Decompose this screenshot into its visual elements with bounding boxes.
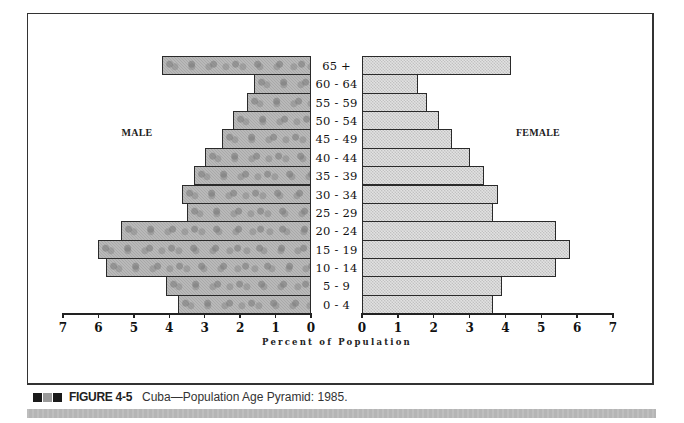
age-group-label: 25 - 29 bbox=[311, 204, 363, 222]
male-x-axis bbox=[63, 313, 311, 315]
x-tick bbox=[505, 313, 507, 318]
x-tick-label: 7 bbox=[603, 321, 623, 335]
x-tick bbox=[62, 313, 64, 318]
x-tick bbox=[204, 313, 206, 318]
male-bar bbox=[187, 203, 311, 222]
x-tick-label: 2 bbox=[424, 321, 444, 335]
x-tick-label: 1 bbox=[388, 321, 408, 335]
x-tick-label: 0 bbox=[301, 321, 321, 335]
x-tick-label: 4 bbox=[495, 321, 515, 335]
age-group-label: 55 - 59 bbox=[311, 94, 363, 112]
x-axis-title: Percent of Population bbox=[262, 337, 412, 347]
x-tick bbox=[133, 313, 135, 318]
x-tick-label: 6 bbox=[567, 321, 587, 335]
male-bar bbox=[247, 93, 311, 112]
x-tick bbox=[169, 313, 171, 318]
female-label: FEMALE bbox=[516, 127, 560, 138]
x-tick bbox=[275, 313, 277, 318]
male-bar bbox=[106, 258, 311, 277]
age-group-label: 45 - 49 bbox=[311, 130, 363, 148]
x-tick-label: 3 bbox=[195, 321, 215, 335]
x-tick bbox=[98, 313, 100, 318]
male-label: MALE bbox=[122, 127, 153, 138]
x-tick bbox=[310, 313, 312, 318]
x-tick-label: 4 bbox=[159, 321, 179, 335]
female-bar bbox=[362, 258, 556, 277]
x-tick-label: 2 bbox=[230, 321, 250, 335]
male-bar bbox=[162, 56, 311, 75]
caption-square-icon bbox=[43, 393, 52, 402]
caption-square-icon bbox=[33, 393, 42, 402]
age-group-label: 30 - 34 bbox=[311, 186, 363, 204]
caption-square-icon bbox=[53, 393, 62, 402]
age-group-label: 10 - 14 bbox=[311, 259, 363, 277]
male-bar bbox=[98, 240, 311, 259]
x-tick-label: 3 bbox=[460, 321, 480, 335]
female-bar bbox=[362, 295, 493, 314]
x-tick bbox=[576, 313, 578, 318]
age-group-label: 5 - 9 bbox=[311, 277, 363, 295]
female-bar bbox=[362, 56, 511, 75]
female-bar bbox=[362, 93, 427, 112]
age-group-label: 15 - 19 bbox=[311, 241, 363, 259]
female-bar bbox=[362, 185, 498, 204]
x-tick bbox=[612, 313, 614, 318]
age-group-label: 20 - 24 bbox=[311, 222, 363, 240]
caption-divider-band bbox=[27, 409, 656, 418]
female-bar bbox=[362, 221, 556, 240]
x-tick bbox=[433, 313, 435, 318]
caption-text: Cuba—Population Age Pyramid: 1985. bbox=[142, 390, 347, 404]
age-group-label: 40 - 44 bbox=[311, 149, 363, 167]
female-bar bbox=[362, 148, 470, 167]
x-tick-label: 7 bbox=[53, 321, 73, 335]
figure-caption: FIGURE 4-5 Cuba—Population Age Pyramid: … bbox=[33, 390, 347, 404]
age-group-label: 65 + bbox=[311, 57, 363, 75]
female-bar bbox=[362, 129, 452, 148]
male-bar bbox=[166, 276, 311, 295]
figure-number: FIGURE 4-5 bbox=[69, 390, 132, 404]
x-tick bbox=[541, 313, 543, 318]
female-bar bbox=[362, 111, 439, 130]
male-bar bbox=[205, 148, 311, 167]
x-tick bbox=[397, 313, 399, 318]
male-bar bbox=[222, 129, 311, 148]
female-bar bbox=[362, 203, 493, 222]
age-group-label: 0 - 4 bbox=[311, 296, 363, 314]
female-bar bbox=[362, 166, 484, 185]
male-bar bbox=[178, 295, 311, 314]
male-bar bbox=[182, 185, 311, 204]
male-bar bbox=[254, 74, 311, 93]
female-bar bbox=[362, 276, 502, 295]
x-tick-label: 6 bbox=[88, 321, 108, 335]
x-tick bbox=[361, 313, 363, 318]
female-bar bbox=[362, 240, 570, 259]
female-bar bbox=[362, 74, 418, 93]
male-bar bbox=[121, 221, 311, 240]
age-group-label: 50 - 54 bbox=[311, 112, 363, 130]
x-tick-label: 5 bbox=[531, 321, 551, 335]
age-group-label: 35 - 39 bbox=[311, 167, 363, 185]
x-tick bbox=[469, 313, 471, 318]
x-tick-label: 5 bbox=[124, 321, 144, 335]
x-tick bbox=[239, 313, 241, 318]
age-group-label: 60 - 64 bbox=[311, 75, 363, 93]
male-bar bbox=[194, 166, 311, 185]
x-tick-label: 1 bbox=[266, 321, 286, 335]
x-tick-label: 0 bbox=[352, 321, 372, 335]
male-bar bbox=[233, 111, 311, 130]
